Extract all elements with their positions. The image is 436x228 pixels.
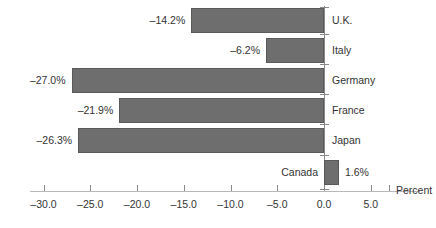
x-axis-tick-label: –15.0: [159, 199, 209, 210]
x-axis-title: Percent: [396, 185, 432, 196]
x-axis-line: [30, 191, 420, 192]
category-label-uk: U.K.: [332, 15, 352, 26]
bar-italy[interactable]: [266, 38, 324, 63]
bar-uk[interactable]: [191, 8, 324, 33]
value-label-canada: 1.6%: [345, 167, 369, 178]
x-axis-tick: [137, 185, 138, 191]
x-axis-tick-label: –20.0: [112, 199, 162, 210]
x-axis-tick-label: 5.0: [346, 199, 396, 210]
x-axis-tick-label: –25.0: [65, 199, 115, 210]
bar-canada[interactable]: [324, 160, 339, 185]
category-label-germany: Germany: [332, 75, 375, 86]
x-axis-tick: [44, 185, 45, 191]
category-axis-tick: [320, 64, 329, 65]
category-axis-tick: [320, 124, 329, 125]
category-label-japan: Japan: [332, 135, 361, 146]
x-axis-tick: [277, 185, 278, 191]
x-axis-tick: [231, 185, 232, 191]
bar-france[interactable]: [119, 98, 324, 123]
x-axis-tick: [371, 185, 372, 191]
x-axis-tick: [324, 185, 325, 191]
category-axis-tick: [320, 94, 329, 95]
x-axis-tick: [90, 185, 91, 191]
category-label-canada: Canada: [281, 167, 318, 178]
value-label-uk: –14.2%: [150, 15, 186, 26]
category-axis-tick: [320, 155, 329, 156]
category-label-italy: Italy: [332, 45, 351, 56]
value-label-japan: –26.3%: [36, 135, 72, 146]
value-label-france: –21.9%: [78, 105, 114, 116]
x-axis-tick: [184, 185, 185, 191]
value-label-germany: –27.0%: [30, 75, 66, 86]
bar-germany[interactable]: [72, 68, 324, 93]
x-axis-tick-label: –5.0: [252, 199, 302, 210]
category-axis-tick: [320, 34, 329, 35]
x-axis-tick-label: –30.0: [19, 199, 69, 210]
bar-japan[interactable]: [78, 128, 324, 153]
value-label-italy: –6.2%: [230, 45, 260, 56]
bar-chart: –14.2%U.K.–6.2%Italy–27.0%Germany–21.9%F…: [0, 0, 436, 228]
category-label-france: France: [332, 105, 365, 116]
plot-area: –14.2%U.K.–6.2%Italy–27.0%Germany–21.9%F…: [0, 0, 436, 228]
x-axis-tick-label: –10.0: [206, 199, 256, 210]
x-axis-tick-label: 0.0: [299, 199, 349, 210]
x-axis-end-tick: [389, 185, 390, 191]
